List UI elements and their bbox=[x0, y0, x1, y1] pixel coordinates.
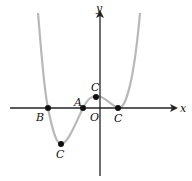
x-axis-label: x bbox=[180, 102, 187, 115]
y-axis-label: y bbox=[95, 2, 103, 15]
origin-label: O bbox=[90, 111, 99, 124]
label-c-right: C bbox=[114, 112, 123, 125]
label-c-max: C bbox=[91, 81, 100, 94]
point-c-max bbox=[93, 94, 99, 100]
label-a: A bbox=[73, 96, 82, 109]
function-graph: y x O B A C C C bbox=[0, 0, 192, 181]
point-b bbox=[45, 105, 51, 111]
label-c-min: C bbox=[56, 148, 65, 161]
point-c-min bbox=[58, 141, 64, 147]
function-curve bbox=[38, 13, 140, 144]
label-b: B bbox=[35, 111, 44, 124]
point-c-right bbox=[115, 105, 121, 111]
